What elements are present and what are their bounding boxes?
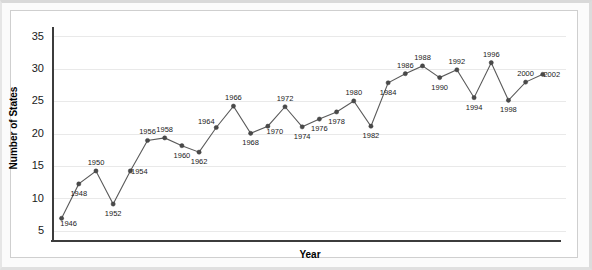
data-point-label: 1988: [414, 53, 431, 62]
data-point-label: 1968: [242, 138, 259, 147]
data-point-marker: [317, 117, 321, 121]
data-point-label: 1996: [483, 50, 500, 59]
data-point-marker: [300, 125, 304, 129]
data-point-marker: [197, 150, 201, 154]
data-point-label: 1980: [345, 88, 362, 97]
y-axis-tick-label: 15: [32, 159, 44, 171]
data-point-label: 1964: [198, 117, 215, 126]
data-point-label: 1976: [311, 124, 328, 133]
data-point-label: 1966: [225, 93, 242, 102]
y-axis-tick-label: 10: [32, 192, 44, 204]
data-point-label: 1974: [294, 132, 311, 141]
data-point-label: 1992: [449, 57, 466, 66]
data-point-marker: [231, 104, 235, 108]
data-point-marker: [420, 64, 424, 68]
data-point-marker: [249, 131, 253, 135]
data-point-label: 1998: [500, 105, 517, 114]
data-point-label: 1950: [88, 158, 105, 167]
data-point-marker: [369, 124, 373, 128]
data-point-label: 1954: [131, 167, 148, 176]
data-point-label: 1952: [105, 209, 122, 218]
data-point-marker: [214, 125, 218, 129]
data-point-marker: [455, 68, 459, 72]
data-point-marker: [506, 98, 510, 102]
data-point-label: 1986: [397, 61, 414, 70]
data-point-marker: [489, 61, 493, 65]
data-point-marker: [77, 182, 81, 186]
data-point-label: 1960: [174, 151, 191, 160]
data-point-marker: [524, 80, 528, 84]
data-point-label: 1948: [70, 189, 87, 198]
chart-screenshot: 5101520253035 19461948195019521954195619…: [0, 0, 592, 270]
data-point-marker: [145, 138, 149, 142]
y-axis-tick-label: 30: [32, 62, 44, 74]
y-axis-tick-label: 20: [32, 127, 44, 139]
y-axis-tick-label: 35: [32, 30, 44, 42]
data-point-marker: [386, 81, 390, 85]
data-point-label: 1970: [266, 127, 283, 136]
data-point-label: 1972: [277, 94, 294, 103]
data-point-marker: [180, 144, 184, 148]
data-point-label: 1978: [328, 117, 345, 126]
data-point-label: 1994: [466, 103, 483, 112]
data-point-label: 1984: [380, 88, 397, 97]
x-axis-title: Year: [299, 249, 320, 260]
data-point-marker: [163, 136, 167, 140]
data-point-marker: [283, 105, 287, 109]
data-point-marker: [352, 99, 356, 103]
chart-plot-area: 5101520253035 19461948195019521954195619…: [0, 0, 592, 270]
data-point-marker: [111, 202, 115, 206]
data-point-marker: [403, 72, 407, 76]
line-chart-svg: 5101520253035 19461948195019521954195619…: [0, 0, 592, 270]
data-point-label: 1990: [431, 83, 448, 92]
data-point-label: 1956: [139, 127, 156, 136]
data-point-label: 2000: [517, 69, 534, 78]
data-point-label: 2002: [543, 70, 560, 79]
data-point-marker: [438, 75, 442, 79]
y-axis-tick-labels: 5101520253035: [32, 30, 44, 237]
y-axis-title: Number of States: [8, 86, 19, 169]
y-axis-tick-label: 25: [32, 94, 44, 106]
data-point-label: 1962: [191, 157, 208, 166]
data-point-label: 1946: [60, 219, 77, 228]
y-axis-tick-label: 5: [38, 224, 44, 236]
data-point-label: 1958: [156, 125, 173, 134]
data-point-marker: [94, 169, 98, 173]
data-point-marker: [472, 96, 476, 100]
data-point-label: 1982: [363, 131, 380, 140]
data-point-labels: 1946194819501952195419561958196019621964…: [60, 50, 560, 229]
data-point-marker: [334, 110, 338, 114]
